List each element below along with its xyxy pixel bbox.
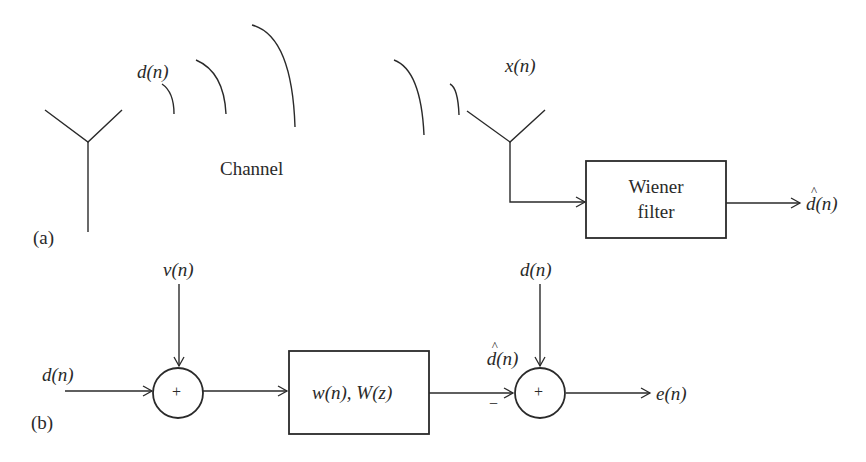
transmit-antenna-icon	[45, 110, 122, 232]
received-signal-label: x(n)	[505, 56, 536, 75]
wiener-filter-line1: Wiener	[586, 174, 726, 199]
receive-antenna-icon	[467, 110, 585, 202]
adder-1-sign: +	[172, 384, 181, 400]
minus-sign: −	[489, 396, 498, 412]
reference-signal-label: d(n)	[520, 260, 552, 279]
filter-output-label: d(n)	[487, 349, 519, 368]
adder-2-sign: +	[534, 384, 543, 400]
wiener-filter-line2: filter	[586, 199, 726, 224]
panel-b-tag: (b)	[31, 413, 53, 432]
radio-wave-arcs	[162, 25, 459, 135]
transmitted-signal-label: d(n)	[137, 62, 169, 81]
input-signal-label: d(n)	[42, 365, 74, 384]
estimated-signal-label: d(n)	[806, 194, 838, 213]
diagram-canvas	[0, 0, 866, 462]
wiener-filter-label: Wiener filter	[586, 174, 726, 224]
noise-label: v(n)	[163, 260, 194, 279]
error-signal-label: e(n)	[656, 384, 687, 403]
channel-label: Channel	[220, 159, 283, 178]
panel-a-tag: (a)	[33, 228, 54, 247]
adaptive-filter-label: w(n), W(z)	[312, 383, 392, 402]
